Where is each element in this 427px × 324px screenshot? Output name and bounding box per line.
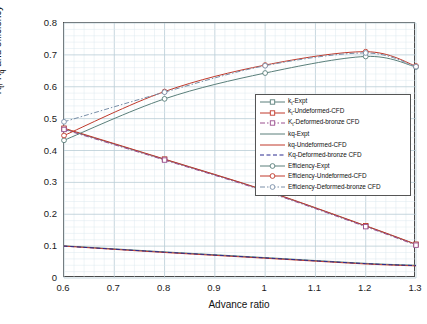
legend-label-5: Kq-Deformed-bronze CFD bbox=[286, 150, 361, 160]
legend-swatch-7 bbox=[259, 171, 286, 181]
x-tick-1.2: 1.2 bbox=[345, 282, 385, 293]
legend-label-6: Efficiency-Expt bbox=[286, 161, 329, 171]
figure: 00.10.20.30.40.50.60.70.8 Kt, Kq and eff… bbox=[0, 0, 427, 324]
y-tick-0: 0 bbox=[27, 272, 57, 283]
legend-item-8[interactable]: Efficiency-Deformed-bronze CFD bbox=[259, 182, 407, 193]
legend-swatch-4 bbox=[259, 140, 286, 150]
y-tick-0.8: 0.8 bbox=[27, 17, 57, 28]
y-tick-0.2: 0.2 bbox=[27, 208, 57, 219]
legend-swatch-3 bbox=[259, 129, 286, 139]
legend-item-4[interactable]: kq-Undeformed-CFD bbox=[259, 139, 407, 150]
x-tick-0.6: 0.6 bbox=[43, 282, 83, 293]
legend-item-5[interactable]: Kq-Deformed-bronze CFD bbox=[259, 150, 407, 161]
y-tick-0.3: 0.3 bbox=[27, 176, 57, 187]
y-tick-0.4: 0.4 bbox=[27, 144, 57, 155]
legend-item-2[interactable]: Kt-Deformed-bronze CFD bbox=[259, 118, 407, 129]
legend-label-4: kq-Undeformed-CFD bbox=[286, 140, 346, 150]
legend-item-6[interactable]: Efficiency-Expt bbox=[259, 161, 407, 172]
x-tick-0.8: 0.8 bbox=[144, 282, 184, 293]
legend-swatch-8 bbox=[259, 182, 286, 192]
legend-label-7: Efficiency-Undeformed-CFD bbox=[286, 171, 367, 181]
legend-swatch-6 bbox=[259, 161, 286, 171]
y-axis-label-text: Kt, Kq and efficiency bbox=[0, 6, 3, 95]
legend-item-7[interactable]: Efficiency-Undeformed-CFD bbox=[259, 171, 407, 182]
y-tick-0.5: 0.5 bbox=[27, 112, 57, 123]
series-kq-expt bbox=[64, 246, 416, 265]
y-tick-0.6: 0.6 bbox=[27, 80, 57, 91]
legend-swatch-1 bbox=[259, 108, 286, 118]
legend: kt-Exptkt-Undeformed-CFDKt-Deformed-bron… bbox=[255, 94, 411, 196]
x-tick-1: 1 bbox=[244, 282, 284, 293]
legend-swatch-5 bbox=[259, 150, 286, 160]
legend-swatch-0 bbox=[259, 97, 286, 107]
y-tick-0.1: 0.1 bbox=[27, 240, 57, 251]
x-tick-1.3: 1.3 bbox=[395, 282, 427, 293]
x-tick-0.9: 0.9 bbox=[194, 282, 234, 293]
legend-swatch-2 bbox=[259, 118, 286, 128]
x-tick-1.1: 1.1 bbox=[294, 282, 334, 293]
legend-item-3[interactable]: kq-Expt bbox=[259, 129, 407, 140]
y-tick-0.7: 0.7 bbox=[27, 48, 57, 59]
x-axis-label-text: Advance ratio bbox=[208, 299, 269, 310]
legend-label-8: Efficiency-Deformed-bronze CFD bbox=[286, 182, 381, 192]
legend-label-3: kq-Expt bbox=[286, 129, 309, 139]
x-tick-0.7: 0.7 bbox=[93, 282, 133, 293]
x-axis-label: Advance ratio bbox=[63, 299, 415, 310]
